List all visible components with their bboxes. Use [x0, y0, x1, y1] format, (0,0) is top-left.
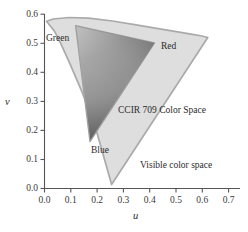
x-tick-label-7: 0.7 — [216, 196, 242, 206]
x-tick-label-2: 0.2 — [84, 196, 110, 206]
y-tick-label-2: 0.2 — [12, 126, 38, 136]
y-tick-label-0: 0.0 — [12, 184, 38, 194]
x-axis-title: u — [133, 210, 138, 221]
y-tick-label-4: 0.4 — [12, 68, 38, 78]
chromaticity-diagram-figure: 0.0 0.1 0.2 0.3 0.4 0.5 0.6 0.0 0.1 0.2 … — [0, 0, 248, 232]
x-tick-label-4: 0.4 — [137, 196, 163, 206]
x-tick-label-3: 0.3 — [110, 196, 136, 206]
x-tick-label-5: 0.5 — [163, 196, 189, 206]
x-tick-label-0: 0.0 — [32, 196, 58, 206]
blue-vertex-label: Blue — [91, 146, 109, 156]
red-vertex-label: Red — [161, 42, 176, 52]
x-axis-ticks — [45, 189, 229, 193]
y-axis-title: v — [5, 96, 10, 107]
y-tick-label-5: 0.5 — [12, 39, 38, 49]
ccir-region-label: CCIR 709 Color Space — [118, 106, 206, 116]
green-vertex-label: Green — [46, 34, 69, 44]
x-tick-label-6: 0.6 — [189, 196, 215, 206]
visible-region-label: Visible color space — [140, 161, 212, 171]
y-axis-ticks — [41, 14, 45, 188]
y-tick-label-3: 0.3 — [12, 97, 38, 107]
y-tick-label-1: 0.1 — [12, 155, 38, 165]
y-tick-label-6: 0.6 — [12, 10, 38, 20]
x-tick-label-1: 0.1 — [58, 196, 84, 206]
